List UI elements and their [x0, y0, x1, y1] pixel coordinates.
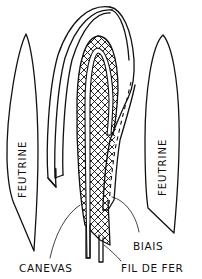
bias-leader: [112, 197, 139, 232]
canvas-piece: [70, 30, 125, 258]
felt-left-piece: FEUTRINE: [7, 34, 38, 251]
bias-label: BIAIS: [133, 240, 163, 252]
felt-right-label: FEUTRINE: [157, 139, 168, 196]
wire-label: FIL DE FER: [121, 262, 183, 274]
diagram-canvas: FEUTRINE FEUTRINE BIAI: [0, 0, 202, 279]
canvas-label: CANEVAS: [19, 262, 73, 274]
felt-right-piece: FEUTRINE: [145, 35, 179, 233]
felt-left-label: FEUTRINE: [17, 141, 28, 198]
wire-leader: [104, 245, 121, 261]
construction-diagram: FEUTRINE FEUTRINE BIAI: [0, 0, 202, 279]
canvas-leader: [50, 205, 80, 258]
